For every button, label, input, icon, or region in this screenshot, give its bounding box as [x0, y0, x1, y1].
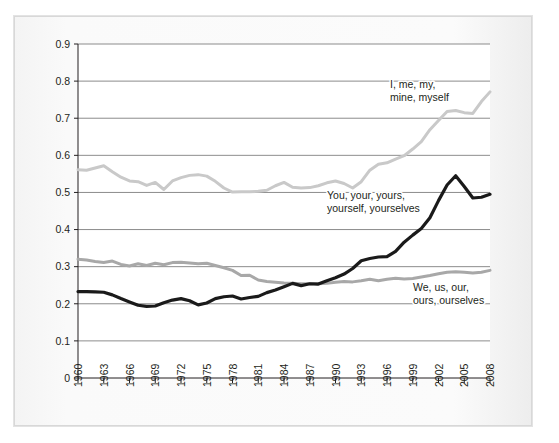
x-tick-label: 2002	[433, 363, 445, 387]
x-tick-label: 1981	[252, 363, 264, 387]
y-tick-label: 0.2	[55, 298, 70, 310]
y-tick-label: 0.6	[55, 149, 70, 161]
annotation-you-your: You, your, yours,	[327, 189, 405, 201]
y-tick-label: 0	[64, 372, 70, 384]
x-tick-label: 1975	[201, 363, 213, 387]
y-tick-label: 0.1	[55, 335, 70, 347]
annotation-you-your: yourself, yourselves	[327, 202, 420, 214]
chart-figure: 00.10.20.30.40.50.60.70.80.9 19601963196…	[0, 0, 559, 443]
x-tick-label: 1966	[124, 363, 136, 387]
annotation-we-us-our: ours, ourselves	[413, 294, 484, 306]
x-tick-label: 1972	[175, 363, 187, 387]
y-tick-label: 0.4	[55, 223, 70, 235]
x-tick-label: 1984	[278, 363, 290, 387]
x-tick-label: 1969	[149, 363, 161, 387]
x-tick-label: 1963	[98, 363, 110, 387]
x-tick-label: 2005	[458, 363, 470, 387]
x-tick-label: 1960	[72, 363, 84, 387]
x-tick-label: 1993	[355, 363, 367, 387]
x-tick-label: 1996	[381, 363, 393, 387]
y-tick-label: 0.7	[55, 112, 70, 124]
y-axis-ticks: 00.10.20.30.40.50.60.70.80.9	[55, 38, 78, 384]
y-tick-label: 0.9	[55, 38, 70, 50]
line-chart: 00.10.20.30.40.50.60.70.80.9 19601963196…	[0, 0, 559, 443]
annotation-i-me-my: I, me, my,	[390, 78, 435, 90]
x-tick-label: 1999	[407, 363, 419, 387]
x-tick-label: 1990	[330, 363, 342, 387]
annotation-i-me-my: mine, myself	[390, 91, 449, 103]
annotation-we-us-our: We, us, our,	[413, 281, 469, 293]
y-tick-label: 0.3	[55, 260, 70, 272]
x-tick-label: 2008	[484, 363, 496, 387]
y-tick-label: 0.8	[55, 75, 70, 87]
x-tick-label: 1978	[227, 363, 239, 387]
y-tick-label: 0.5	[55, 186, 70, 198]
x-tick-label: 1987	[304, 363, 316, 387]
